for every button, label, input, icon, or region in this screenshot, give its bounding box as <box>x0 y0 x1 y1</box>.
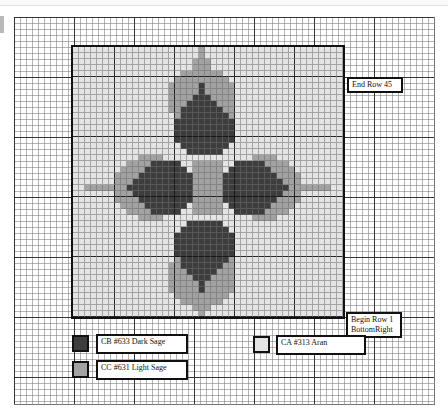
legend-label-aran: CA #313 Aran <box>276 335 366 355</box>
begin-row-line2: BottomRight <box>351 325 397 335</box>
end-row-label: End Row 45 <box>347 77 403 93</box>
side-tab-handle[interactable] <box>0 16 4 33</box>
chart-cells <box>73 47 343 317</box>
legend-swatch-aran <box>253 336 270 353</box>
legend-label-dark-sage: CB #633 Dark Sage <box>96 334 188 354</box>
legend-label-light-sage: CC #631 Light Sage <box>96 360 188 380</box>
top-bar <box>0 0 448 6</box>
legend-swatch-light-sage <box>72 361 89 378</box>
legend-text: CB #633 Dark Sage <box>101 337 165 346</box>
legend-text: CA #313 Aran <box>281 338 327 347</box>
legend-text: CC #631 Light Sage <box>101 363 167 372</box>
chart-cell <box>337 311 343 317</box>
end-row-text: End Row 45 <box>352 80 392 89</box>
begin-row-line1: Begin Row 1 <box>351 315 397 325</box>
knitting-chart <box>71 45 345 319</box>
legend-swatch-dark-sage <box>72 335 89 352</box>
